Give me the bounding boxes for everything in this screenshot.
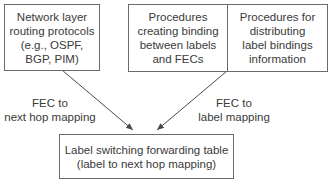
routing-protocols-text: Network layer routing protocols (e.g., O…: [9, 10, 94, 66]
forwarding-table-box: Label switching forwarding table (label …: [59, 134, 234, 179]
distribution-procedures-text: Procedures for distributing label bindin…: [240, 10, 315, 66]
routing-protocols-box: Network layer routing protocols (e.g., O…: [4, 4, 100, 71]
distribution-procedures-box: Procedures for distributing label bindin…: [227, 4, 328, 72]
binding-procedures-box: Procedures creating binding between labe…: [128, 4, 228, 72]
edge-label-left: FEC to next hop mapping: [4, 96, 96, 124]
edge-label-right: FEC to label mapping: [196, 96, 272, 124]
forwarding-table-text: Label switching forwarding table (label …: [65, 143, 229, 171]
binding-procedures-text: Procedures creating binding between labe…: [137, 10, 218, 66]
